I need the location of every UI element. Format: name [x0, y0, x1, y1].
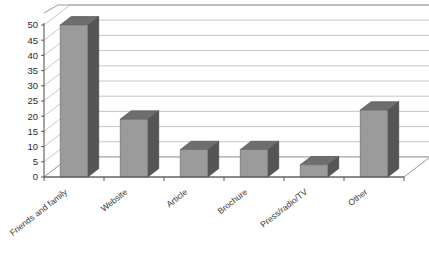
chart-canvas: 05101520253035404550 Friends and familyW… — [0, 0, 429, 269]
y-axis-tick-label: 10 — [27, 141, 38, 152]
x-axis-category-labels: Friends and familyWebsiteArticleBrochure… — [8, 186, 370, 238]
bar-front-face — [180, 150, 208, 177]
bar-3 — [180, 141, 219, 177]
bar-4 — [240, 141, 279, 177]
y-axis-tick-label: 40 — [27, 50, 38, 61]
bar-front-face — [60, 25, 88, 177]
bar-series — [60, 17, 399, 177]
bar-side-face — [88, 17, 99, 177]
bar-1 — [60, 17, 99, 177]
bar-front-face — [300, 165, 328, 177]
bar-front-face — [360, 110, 388, 177]
x-axis — [44, 177, 404, 181]
x-axis-category-label: Other — [346, 187, 369, 208]
y-axis-tick-label: 50 — [27, 19, 38, 30]
y-axis-tick-label: 15 — [27, 126, 38, 137]
y-axis-tick-label: 20 — [27, 111, 38, 122]
x-axis-category-label: Brochure — [216, 187, 250, 216]
bar-6 — [360, 102, 399, 177]
y-axis-tick-label: 30 — [27, 80, 38, 91]
bar-side-face — [148, 111, 159, 177]
bar-front-face — [240, 150, 268, 177]
y-axis-tick-label: 25 — [27, 95, 38, 106]
y-axis-tick-label: 45 — [27, 35, 38, 46]
x-axis-category-label: Press/radio/TV — [258, 187, 309, 230]
bar-2 — [120, 111, 159, 177]
y-axis-tick-label: 0 — [33, 171, 38, 182]
y-axis-tick-label: 35 — [27, 65, 38, 76]
back-wall-top-riser — [44, 5, 58, 13]
x-axis-category-label: Article — [164, 187, 189, 210]
x-axis-category-label: Friends and family — [8, 186, 70, 238]
y-axis — [41, 23, 44, 177]
bar-chart: 05101520253035404550 Friends and familyW… — [0, 0, 429, 269]
bar-front-face — [120, 119, 148, 177]
y-axis-tick-labels: 05101520253035404550 — [27, 19, 38, 182]
bar-side-face — [388, 102, 399, 177]
x-axis-category-label: Website — [99, 187, 130, 214]
y-axis-tick-label: 5 — [33, 156, 38, 167]
